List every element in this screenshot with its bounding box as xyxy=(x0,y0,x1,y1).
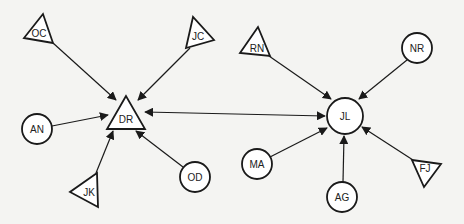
node-rn: RN xyxy=(240,27,270,56)
node-an: AN xyxy=(22,114,52,144)
node-label: AG xyxy=(335,192,350,203)
node-ma: MA xyxy=(242,149,272,179)
node-label: AN xyxy=(30,124,44,135)
network-diagram: OCJCDRANJKODRNNRJLMAAGFJ xyxy=(0,0,464,224)
node-label: JL xyxy=(340,111,351,122)
node-label: NR xyxy=(410,43,424,54)
node-label: MA xyxy=(250,159,265,170)
node-ag: AG xyxy=(327,182,357,212)
node-label: JC xyxy=(192,31,204,42)
edge-fj-to-jl-arrow xyxy=(362,127,413,160)
edge-jc-to-dr-arrow xyxy=(138,48,190,100)
edge-oc-to-dr-arrow xyxy=(53,43,116,100)
node-label: OC xyxy=(32,28,47,39)
node-label: JK xyxy=(83,187,95,198)
edge-nr-to-jl-arrow xyxy=(359,60,407,99)
node-jl: JL xyxy=(327,98,363,134)
node-label: DR xyxy=(119,114,133,125)
node-label: OD xyxy=(188,172,203,183)
node-jc: JC xyxy=(186,17,214,48)
node-dr: DR xyxy=(107,96,145,129)
edge-dr-to-jl-arrow xyxy=(145,112,325,116)
node-fj: FJ xyxy=(412,160,441,187)
edge-od-to-dr-arrow xyxy=(136,131,183,167)
node-nr: NR xyxy=(402,33,432,63)
node-oc: OC xyxy=(24,14,53,43)
edge-ag-to-jl-arrow xyxy=(343,136,344,182)
edge-rn-to-jl-arrow xyxy=(269,56,331,99)
edge-ma-to-jl-arrow xyxy=(270,128,327,157)
edge-an-to-dr-arrow xyxy=(52,115,108,126)
nodes-layer: OCJCDRANJKODRNNRJLMAAGFJ xyxy=(22,14,441,212)
edge-jk-to-dr-arrow xyxy=(96,131,113,173)
node-jk: JK xyxy=(70,173,98,207)
node-label: FJ xyxy=(419,163,430,174)
node-od: OD xyxy=(180,162,210,192)
node-label: RN xyxy=(250,43,264,54)
